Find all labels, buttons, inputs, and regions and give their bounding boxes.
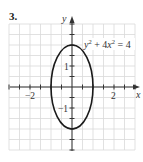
problem-number: 3. xyxy=(9,10,18,22)
y-tick-label-1: 1 xyxy=(64,62,69,72)
y-axis-arrow-icon xyxy=(70,16,75,23)
y-tick-label-neg1: −1 xyxy=(58,104,68,114)
ellipse-graph: 3. y x −2 2 1 −1 y2 + 4x2 = 4 xyxy=(0,0,143,162)
y-axis-label: y xyxy=(61,13,67,24)
y-axis xyxy=(70,16,75,151)
x-tick-label-neg2: −2 xyxy=(25,91,35,101)
x-tick-label-2: 2 xyxy=(111,91,116,101)
equation-mid: + 4 xyxy=(92,39,108,50)
x-axis-label: x xyxy=(135,89,141,100)
equation-end: = 4 xyxy=(115,39,131,50)
